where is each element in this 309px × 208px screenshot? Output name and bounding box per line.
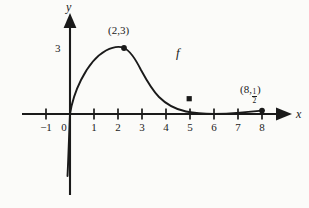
x-tick-label-5: 5 <box>182 122 198 133</box>
x-tick-label-0: 0 <box>56 122 72 133</box>
x-tick-label-3: 3 <box>134 122 150 133</box>
marked-point-maximum <box>121 45 127 51</box>
endpoint-point-label: (8,12) <box>240 84 261 104</box>
x-tick-label-2: 2 <box>110 122 126 133</box>
graph-canvas <box>0 0 309 208</box>
x-tick-label-6: 6 <box>206 122 222 133</box>
x-tick-label-8: 8 <box>254 122 270 133</box>
x-axis-arrowhead <box>276 108 292 121</box>
function-label-f: f <box>176 46 180 59</box>
marked-point-endpoint <box>259 108 265 114</box>
x-axis-label: x <box>296 108 301 120</box>
maximum-point-label: (2,3) <box>108 25 129 36</box>
function-curve-f <box>68 47 263 176</box>
calculus-graph-figure: −1 0 1 2 3 4 5 6 7 8 3 x y (2,3) f (8,12… <box>0 0 309 208</box>
endpoint-label-close: ) <box>257 83 261 95</box>
y-tick-label-3: 3 <box>55 43 61 54</box>
x-tick-label-4: 4 <box>158 122 174 133</box>
x-tick-label-7: 7 <box>230 122 246 133</box>
x-tick-label-neg1: −1 <box>38 122 54 133</box>
y-axis-arrowhead <box>64 13 77 28</box>
endpoint-label-open: (8, <box>240 83 252 95</box>
marked-point-inflection <box>187 96 192 101</box>
y-axis-label: y <box>66 1 71 13</box>
x-tick-label-1: 1 <box>86 122 102 133</box>
fraction-denominator: 2 <box>252 96 257 105</box>
